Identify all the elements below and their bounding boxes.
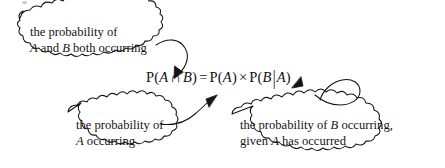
given-bar-symbol: | — [272, 64, 277, 90]
arrow-to-cond-b — [292, 77, 360, 105]
callout-cond-b-text: the probability of B occurring, given A … — [240, 118, 393, 149]
given-text: given — [240, 134, 271, 148]
times-symbol: × — [237, 69, 249, 85]
callout-prob-a-line-1: the probability of — [76, 118, 163, 134]
formula-p-open-3: P( — [249, 69, 262, 85]
has-occurred-text: has occurred — [279, 134, 346, 148]
var-b: B — [62, 41, 70, 55]
probability-of-text: the probability of — [240, 118, 331, 132]
arrow-to-prob-a — [160, 95, 217, 125]
callout-intersection-line-2: A and B both occurring — [30, 41, 147, 57]
var-a: A — [30, 41, 38, 55]
formula-var-a-2: A — [223, 69, 232, 85]
probability-multiplication-rule-diagram: the probability of A and B both occurrin… — [0, 0, 445, 168]
occurring-text: occurring — [84, 134, 135, 148]
callout-cond-b-line-1: the probability of B occurring, — [240, 118, 393, 134]
callout-prob-a-line-2: A occurring — [76, 134, 163, 150]
var-a: A — [76, 134, 84, 148]
formula-close-3: ) — [286, 69, 291, 85]
var-a: A — [271, 134, 279, 148]
formula-var-a-1: A — [159, 69, 168, 85]
top-edge-artifact — [22, 1, 27, 4]
formula-p-open-1: P( — [146, 69, 159, 85]
formula-p-open-2: P( — [210, 69, 223, 85]
conjunction-and: and — [38, 41, 62, 55]
intersection-symbol: ∩ — [168, 69, 183, 85]
occurring-text: occurring, — [338, 118, 393, 132]
formula-var-a-3: A — [277, 69, 286, 85]
formula-var-b-2: B — [263, 69, 272, 85]
probability-formula: P(A∩B)=P(A)×P(B|A) — [146, 68, 291, 86]
callout-intersection-text: the probability of A and B both occurrin… — [30, 25, 147, 56]
formula-var-b-1: B — [183, 69, 192, 85]
callout-cond-b-line-2: given A has occurred — [240, 134, 393, 150]
callout-intersection-line-1: the probability of — [30, 25, 147, 41]
callout-prob-a-text: the probability of A occurring — [76, 118, 163, 149]
both-occurring-text: both occurring — [70, 41, 147, 55]
equals-symbol: = — [197, 69, 209, 85]
